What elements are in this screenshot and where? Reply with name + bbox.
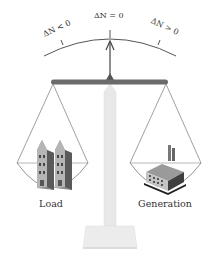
load-label: Load (39, 198, 63, 209)
beam (51, 80, 168, 85)
tick-left (61, 40, 63, 45)
pillar (104, 84, 116, 226)
scale-base (83, 226, 137, 248)
houses-icon (37, 140, 72, 190)
factory-icon (144, 145, 186, 195)
gauge-label-zero: ΔN = 0 (94, 11, 124, 20)
generation-label: Generation (138, 198, 192, 209)
tick-right (158, 40, 160, 45)
balance-scale-drawing (0, 0, 215, 257)
